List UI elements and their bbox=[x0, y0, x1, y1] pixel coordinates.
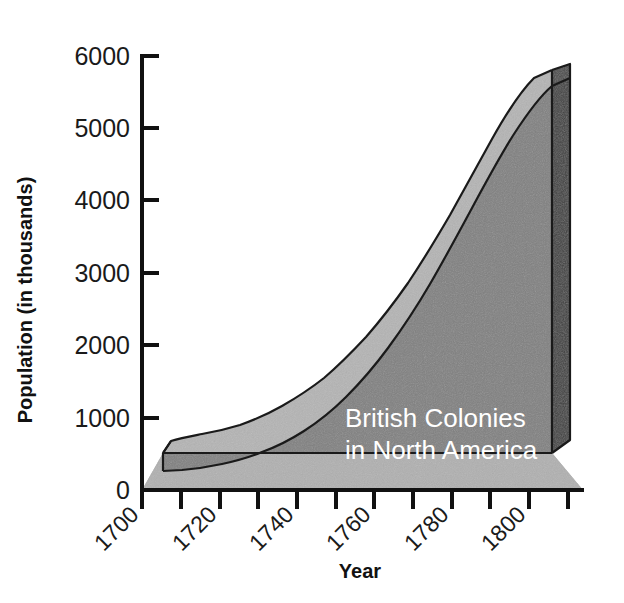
x-tick-label-1720: 1720 bbox=[167, 501, 222, 556]
y-tick-label-6000: 6000 bbox=[74, 42, 130, 70]
x-tick-label-1700: 1700 bbox=[89, 501, 144, 556]
y-tick-label-4000: 4000 bbox=[74, 186, 130, 214]
chart-figure: 6000 5000 4000 3000 2000 1000 0 170 bbox=[0, 0, 624, 603]
x-tick-labels: 1700 1720 1740 1760 1780 1800 bbox=[89, 501, 531, 556]
x-tick-label-1780: 1780 bbox=[399, 501, 454, 556]
x-tick-label-1740: 1740 bbox=[244, 501, 299, 556]
y-tick-label-3000: 3000 bbox=[74, 259, 130, 287]
x-axis-title: Year bbox=[339, 560, 381, 582]
y-tick-label-5000: 5000 bbox=[74, 114, 130, 142]
series-annotation-line-1: British Colonies bbox=[345, 403, 526, 433]
series-annotation-line-2: in North America bbox=[345, 435, 538, 465]
y-tick-labels: 6000 5000 4000 3000 2000 1000 0 bbox=[74, 42, 130, 504]
y-axis bbox=[142, 54, 159, 491]
y-tick-label-1000: 1000 bbox=[74, 404, 130, 432]
y-axis-title: Population (in thousands) bbox=[14, 177, 36, 424]
population-area-chart: 6000 5000 4000 3000 2000 1000 0 170 bbox=[0, 0, 624, 603]
x-tick-label-1800: 1800 bbox=[476, 501, 531, 556]
x-tick-label-1760: 1760 bbox=[321, 501, 376, 556]
area-right-face bbox=[552, 64, 570, 453]
y-tick-label-0: 0 bbox=[116, 476, 130, 504]
y-tick-label-2000: 2000 bbox=[74, 331, 130, 359]
